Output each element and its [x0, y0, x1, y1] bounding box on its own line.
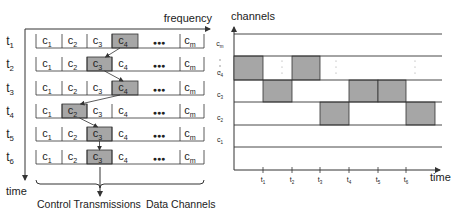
- time-row: t3c1c2c3c4●●●cm: [6, 81, 204, 97]
- time-row-label: t1: [6, 34, 14, 50]
- channel-cell-label: c1: [42, 81, 52, 96]
- channel-cell-label: cm: [184, 150, 196, 165]
- hop-arrow: [81, 95, 121, 104]
- channel-cell-label: c3: [93, 34, 103, 49]
- dot: [414, 60, 415, 61]
- time-row: t4c1c2c3c4●●●cm: [6, 104, 204, 120]
- channel-cell-label: cm: [184, 104, 196, 119]
- dot: [281, 72, 282, 73]
- channel-cell-label: cm: [184, 57, 196, 72]
- time-row-label: t3: [6, 81, 14, 97]
- time-tick-label: t1: [261, 176, 266, 185]
- ellipsis: ●●●: [153, 39, 166, 46]
- occupied-slot: [292, 56, 320, 80]
- time-axis-right-label: time: [430, 171, 451, 183]
- occupied-slot: [349, 80, 378, 102]
- frequency-axis-label: frequency: [164, 12, 213, 24]
- control-transmissions-label: Control Transmissions: [37, 198, 141, 210]
- dot: [414, 66, 415, 67]
- channel-cell-label: c3: [93, 81, 103, 96]
- channel-cell-label: c1: [42, 127, 52, 142]
- time-row-label: t5: [6, 127, 14, 143]
- ellipsis: ●●●: [153, 86, 166, 93]
- dot: [414, 72, 415, 73]
- time-row-label: t4: [6, 104, 14, 120]
- channel-cell-label: c2: [68, 150, 78, 165]
- channel-cell-label: c3: [93, 104, 103, 119]
- time-tick-label: t2: [290, 176, 295, 185]
- channel-cell-label: c2: [68, 34, 78, 49]
- time-row: t2c1c2c3c4●●●cm: [6, 57, 204, 73]
- occupied-slot: [320, 102, 349, 125]
- hop-arrow: [105, 71, 124, 81]
- occupied-slot: [378, 80, 406, 102]
- time-tick-label: t6: [404, 176, 409, 185]
- channel-cell-label: c1: [42, 150, 52, 165]
- channel-cell-label: cm: [184, 81, 196, 96]
- ellipsis: ●●●: [153, 155, 166, 162]
- occupied-slot: [263, 80, 292, 102]
- channel-cell-label: c4: [118, 150, 128, 165]
- control-brace: [36, 180, 204, 188]
- hop-arrow: [106, 48, 121, 57]
- channel-label: cm: [216, 40, 224, 49]
- time-row-label: t2: [6, 57, 14, 73]
- right-panel-hopping-timeline: channels time cmc4c3c2c1 t1t2t3t4t5t6: [216, 10, 450, 185]
- time-row: t1c1c2c3c4●●●cm: [6, 34, 204, 50]
- channel-cell-label: c2: [68, 127, 78, 142]
- channel-cell-label: c1: [42, 34, 52, 49]
- ellipsis: ●●●: [153, 109, 166, 116]
- time-row-label: t6: [6, 150, 14, 166]
- dot: [335, 60, 336, 61]
- dot: [335, 66, 336, 67]
- occupied-slot: [234, 56, 263, 80]
- channel-cell-label: c2: [68, 57, 78, 72]
- data-channels-label: Data Channels: [146, 198, 215, 210]
- dot: [335, 72, 336, 73]
- channel-label: c2: [217, 114, 224, 123]
- dot: [281, 66, 282, 67]
- channels-axis-label: channels: [231, 10, 276, 22]
- time-tick-label: t5: [376, 176, 381, 185]
- channel-label: c3: [217, 91, 224, 100]
- channel-cell-label: c2: [68, 81, 78, 96]
- vertical-ellipsis: [219, 59, 220, 60]
- channel-cell-label: cm: [184, 34, 196, 49]
- vertical-ellipsis: [219, 65, 220, 66]
- ellipsis: ●●●: [153, 132, 166, 139]
- time-row: t5c1c2c3c4●●●cm: [6, 127, 204, 143]
- channel-cell-label: c1: [42, 57, 52, 72]
- ellipsis: ●●●: [153, 62, 166, 69]
- occupied-slot: [406, 102, 435, 125]
- time-axis-label: time: [6, 185, 27, 197]
- time-row: t6c1c2c3c4●●●cm: [6, 150, 204, 166]
- channel-cell-label: c4: [118, 57, 128, 72]
- time-tick-label: t3: [318, 176, 323, 185]
- hop-arrow: [80, 118, 98, 127]
- frequency-hopping-diagram: frequency time t1c1c2c3c4●●●cmt2c1c2c3c4…: [0, 0, 459, 218]
- channel-cell-label: cm: [184, 127, 196, 142]
- time-tick-label: t4: [347, 176, 352, 185]
- dot: [281, 60, 282, 61]
- channel-cell-label: c4: [118, 104, 128, 119]
- channel-cell-label: c1: [42, 104, 52, 119]
- channel-label: c4: [217, 69, 224, 78]
- channel-label: c1: [217, 136, 224, 145]
- left-panel-channel-grid: frequency time t1c1c2c3c4●●●cmt2c1c2c3c4…: [6, 12, 215, 210]
- channel-cell-label: c4: [118, 127, 128, 142]
